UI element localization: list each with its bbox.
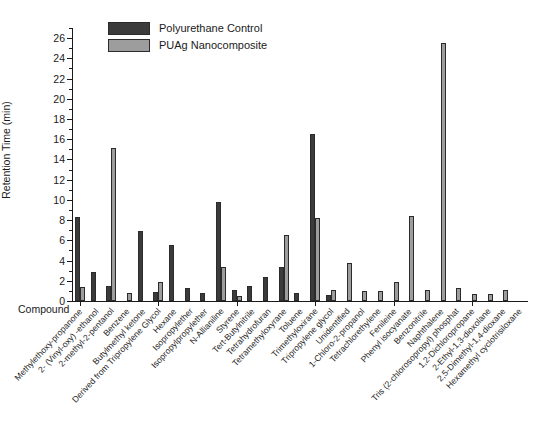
bar-group — [401, 216, 417, 301]
bar-nanocomposite — [425, 290, 430, 301]
y-tick-label: 26 — [53, 33, 65, 44]
bar-group — [260, 277, 276, 301]
bar-group — [496, 290, 512, 301]
x-category-label: 1,2-Dichloropropane — [417, 307, 476, 370]
x-category-label: Unidentified — [314, 307, 351, 346]
y-tick-label: 20 — [53, 94, 65, 105]
y-tick-label: 10 — [53, 195, 65, 206]
x-category-label: N-Allianiline — [188, 307, 225, 346]
y-tick-label: 12 — [53, 174, 65, 185]
x-category-label: Benzene — [102, 307, 131, 338]
y-tick-label: 4 — [59, 255, 65, 266]
y-tick-label: 22 — [53, 73, 65, 84]
x-category-label: 2,5-Dimethyl-1,4-dioxane — [436, 307, 508, 383]
y-tick — [67, 301, 72, 302]
bar-nanocomposite — [409, 216, 414, 301]
bar-nanocomposite — [284, 235, 289, 301]
plot-area: 02468101214161820222426 — [72, 28, 527, 301]
x-tick — [237, 301, 238, 306]
bar-group — [88, 272, 104, 301]
x-tick — [394, 301, 395, 306]
x-category-label: Benzonitrile — [392, 307, 429, 346]
x-category-label: Fenileine — [368, 307, 398, 338]
x-category-label: Naphthalene — [405, 307, 445, 349]
bar-control — [263, 277, 268, 301]
legend-swatch-nanocomposite — [108, 39, 150, 52]
bar-group — [166, 245, 182, 301]
x-category-label: 2- (Vinyl-oxy) -ethanol — [36, 307, 100, 374]
chart-legend: Polyurethane Control PUAg Nanocomposite — [108, 22, 267, 52]
bar-nanocomposite — [472, 294, 477, 301]
bar-group — [323, 290, 339, 301]
y-tick-label: 8 — [59, 215, 65, 226]
bar-nanocomposite — [378, 291, 383, 301]
bar-group — [417, 290, 433, 301]
bar-group — [386, 282, 402, 301]
x-category-label: Trimethyloxirane — [270, 307, 319, 359]
x-category-label: Phenyl isocyanate — [360, 307, 414, 364]
x-category-label: 2-Ethyl-1,3-dioxolane — [431, 307, 493, 372]
y-tick-label: 24 — [53, 53, 65, 64]
x-category-label: Methylethoxy-propanone — [13, 307, 84, 382]
bar-nanocomposite — [80, 287, 85, 301]
bar-group — [182, 288, 198, 301]
x-category-label: Toluene — [277, 307, 304, 335]
x-category-label: Hexane — [152, 307, 178, 335]
bar-nanocomposite — [441, 43, 446, 301]
bar-nanocomposite — [315, 218, 320, 301]
bar-nanocomposite — [111, 148, 116, 301]
bar-group — [433, 43, 449, 301]
bar-nanocomposite — [394, 282, 399, 301]
bar-group — [229, 290, 245, 301]
bar-group — [150, 282, 166, 301]
x-tick — [315, 301, 316, 306]
bar-nanocomposite — [488, 294, 493, 301]
x-tick — [158, 301, 159, 306]
bar-nanocomposite — [362, 291, 367, 301]
bar-group — [464, 294, 480, 301]
bar-group — [119, 293, 135, 301]
x-tick — [80, 301, 81, 306]
bar-control — [200, 293, 205, 301]
x-category-label: Isopropylpropylether — [150, 307, 209, 370]
bar-nanocomposite — [347, 263, 352, 301]
x-category-label: Tetrachlorethylene — [328, 307, 382, 364]
bar-control — [247, 286, 252, 301]
bar-group — [354, 291, 370, 301]
bar-nanocomposite — [158, 282, 163, 301]
bar-group — [449, 288, 465, 301]
y-tick-label: 14 — [53, 154, 65, 165]
bar-group — [213, 202, 229, 301]
bar-group — [339, 263, 355, 301]
bar-group — [135, 231, 151, 301]
x-category-label: Derived from Tripropylene Glycol — [71, 307, 163, 404]
legend-label-nanocomposite: PUAg Nanocomposite — [159, 40, 267, 51]
bar-control — [185, 288, 190, 301]
y-tick-label: 16 — [53, 134, 65, 145]
bar-nanocomposite — [331, 290, 336, 301]
bar-control — [294, 293, 299, 301]
bar-control — [138, 231, 143, 301]
bar-nanocomposite — [503, 290, 508, 301]
x-category-label: Tetrahydrofuran — [225, 307, 272, 357]
x-category-label: Butylmethyl ketone — [91, 307, 147, 366]
x-category-label: Styrene — [214, 307, 240, 335]
bar-group — [198, 293, 214, 301]
y-tick-label: 18 — [53, 114, 65, 125]
x-category-label: 1-Chloro-2-propanol — [308, 307, 367, 369]
bar-control — [91, 272, 96, 301]
x-axis-line — [72, 301, 528, 302]
x-axis-title: Compound — [18, 303, 69, 315]
y-tick-label: 2 — [59, 276, 65, 287]
x-category-label: Isopropylether — [151, 307, 194, 353]
x-category-label: Tert-Butylnitrile — [212, 307, 257, 354]
legend-item-control: Polyurethane Control — [108, 22, 267, 35]
x-category-label: Tripropylene glycol — [280, 307, 335, 365]
bar-group — [370, 291, 386, 301]
bar-group — [245, 286, 261, 301]
x-category-label: 2-methyl-2-pentanol — [57, 307, 115, 369]
chart-page: Retention Time (min) 0246810121416182022… — [0, 0, 543, 437]
x-tick — [472, 301, 473, 306]
bar-group — [276, 235, 292, 301]
bar-control — [169, 245, 174, 301]
